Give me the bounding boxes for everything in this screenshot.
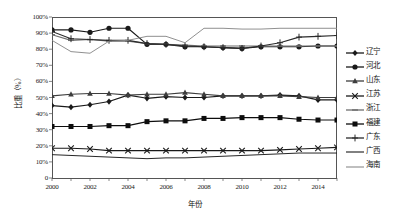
legend-item-山东[interactable]: 山东 (345, 72, 401, 86)
chart-legend: 辽宁河北山东江苏浙江福建广东广西海南 (345, 44, 401, 172)
y-tick-label: 100% (8, 13, 48, 21)
line-chart: 100%90%80%70%60%50%40%30%20%10%0 2000200… (0, 0, 402, 216)
x-tick-label: 2012 (266, 183, 294, 191)
legend-label: 福建 (365, 118, 380, 127)
legend-item-广西[interactable]: 广西 (345, 143, 401, 157)
legend-label: 浙江 (365, 103, 380, 112)
legend-key-icon (345, 116, 365, 128)
x-tick-label: 2010 (228, 183, 256, 191)
data-series-layer (49, 26, 340, 159)
legend-key-icon (345, 88, 365, 100)
y-tick-label: 80% (8, 45, 48, 53)
legend-label: 山东 (365, 75, 380, 84)
legend-item-广东[interactable]: 广东 (345, 129, 401, 143)
series-7 (52, 153, 337, 159)
legend-key-icon (345, 59, 365, 71)
legend-item-浙江[interactable]: 浙江 (345, 101, 401, 115)
series-5 (50, 115, 340, 129)
legend-key-icon (345, 159, 365, 171)
legend-key-icon (345, 144, 365, 156)
series-8 (52, 28, 337, 53)
legend-key-icon (345, 73, 365, 85)
legend-item-辽宁[interactable]: 辽宁 (345, 44, 401, 58)
legend-label: 江苏 (365, 89, 380, 98)
legend-item-福建[interactable]: 福建 (345, 115, 401, 129)
y-axis-title: 比重（%） (12, 62, 23, 122)
series-0 (49, 92, 339, 110)
y-tick-label: 90% (8, 29, 48, 37)
series-4 (49, 35, 340, 46)
series-3 (49, 145, 340, 154)
legend-key-icon (345, 102, 365, 114)
legend-key-icon (345, 45, 365, 57)
legend-item-海南[interactable]: 海南 (345, 158, 401, 172)
legend-label: 河北 (365, 61, 380, 70)
x-tick-label: 2008 (190, 183, 218, 191)
y-tick-label: 0 (8, 174, 48, 182)
legend-key-icon (345, 130, 365, 142)
series-2 (49, 90, 340, 100)
x-tick-label: 2002 (76, 183, 104, 191)
x-tick-label: 2014 (304, 183, 332, 191)
legend-item-河北[interactable]: 河北 (345, 58, 401, 72)
legend-label: 广东 (365, 132, 380, 141)
x-tick-label: 2004 (114, 183, 142, 191)
x-axis-title: 年份 (52, 198, 337, 209)
legend-label: 广西 (365, 146, 380, 155)
legend-label: 海南 (365, 160, 380, 169)
y-tick-label: 30% (8, 126, 48, 134)
y-tick-label: 20% (8, 142, 48, 150)
legend-item-江苏[interactable]: 江苏 (345, 87, 401, 101)
x-tick-label: 2000 (38, 183, 66, 191)
x-tick-label: 2006 (152, 183, 180, 191)
legend-label: 辽宁 (365, 47, 380, 56)
y-tick-label: 10% (8, 158, 48, 166)
